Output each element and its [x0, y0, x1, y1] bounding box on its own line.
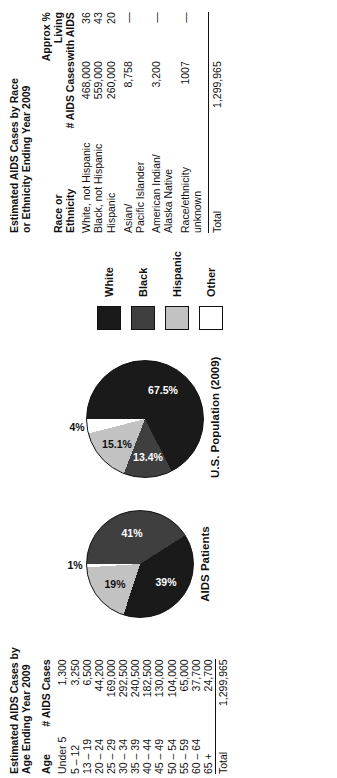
age-label: 5 – 12	[69, 727, 81, 774]
age-cases-value: 130,000	[154, 659, 166, 726]
age-cases-value: 44,200	[93, 659, 105, 726]
age-cases-value: 24,700	[203, 659, 216, 726]
us-population-pie-caption: U.S. Population (2009)	[209, 357, 221, 478]
pie-legend: WhiteBlackHispanicOther	[98, 251, 234, 330]
table-row: 35 – 39240,500	[130, 659, 142, 774]
age-cases-value: 240,500	[130, 659, 142, 726]
race-cases-column-header: # AIDS Cases	[41, 61, 80, 128]
race-group-label: Asian/ Pacific Islander	[122, 129, 147, 233]
age-label: 30 – 34	[118, 727, 130, 774]
legend-swatch-icon	[131, 306, 155, 330]
table-row: 20 – 2444,200	[93, 659, 105, 774]
age-label: 65 +	[203, 727, 216, 774]
age-label: 25 – 29	[106, 727, 118, 774]
legend-item-label: Black	[137, 268, 149, 297]
race-pct-living-value: 36	[80, 12, 93, 61]
age-total-label: Total	[215, 727, 230, 774]
table-row-total: Total1,299,965	[215, 659, 230, 774]
us-population-pie-chart: 67.5%13.4%15.1%4%	[86, 360, 204, 478]
race-pct-living-value: —	[122, 12, 147, 61]
age-column-header: Age	[41, 727, 57, 774]
table-row: 45 – 49130,000	[154, 659, 166, 774]
pie-slice-label: 15.1%	[102, 438, 132, 450]
legend-item-black: Black	[132, 251, 154, 330]
race-pct-living-value: —	[151, 12, 176, 61]
aids-patients-pie-caption: AIDS Patients	[199, 510, 211, 618]
legend-swatch-icon	[199, 306, 223, 330]
age-table-block: Estimated AIDS Cases by Age Ending Year …	[8, 647, 230, 774]
table-row: Race/ethnicity unknown1007—	[179, 12, 204, 233]
race-total-pct	[209, 12, 224, 61]
table-row: 5 – 123,250	[69, 659, 81, 774]
table-row: 60 – 6437,700	[190, 659, 202, 774]
age-label: 20 – 24	[93, 727, 105, 774]
race-group-label: Race/ethnicity unknown	[179, 129, 204, 233]
race-cases-value: 559,000	[93, 61, 106, 128]
age-table: Age # AIDS Cases Under 51,3005 – 123,250…	[41, 659, 229, 774]
age-label: 35 – 39	[130, 727, 142, 774]
age-table-header-row: Age # AIDS Cases	[41, 659, 57, 774]
race-group-label: Hispanic	[106, 129, 119, 233]
table-row: White, not Hispanic468,00036	[80, 12, 93, 233]
age-table-body: Under 51,3005 – 123,25013 – 196,50020 – …	[57, 659, 230, 774]
legend-swatch-icon	[97, 306, 121, 330]
race-column-header: Race or Ethnicity	[41, 129, 80, 233]
age-label: 55 – 59	[178, 727, 190, 774]
age-cases-value: 292,500	[118, 659, 130, 726]
age-label: 60 – 64	[190, 727, 202, 774]
race-table-body: White, not Hispanic468,00036Black, not H…	[80, 12, 224, 233]
table-row: Asian/ Pacific Islander8,758—	[122, 12, 147, 233]
us-population-pie-block: 67.5%13.4%15.1%4% U.S. Population (2009)	[86, 357, 221, 478]
age-label: 45 – 49	[154, 727, 166, 774]
race-table: Race or Ethnicity # AIDS Cases Approx % …	[41, 12, 223, 233]
pie-slice-label: 4%	[69, 421, 84, 433]
age-cases-column-header: # AIDS Cases	[41, 659, 57, 726]
legend-item-label: White	[103, 267, 115, 297]
age-cases-value: 3,250	[69, 659, 81, 726]
race-group-label: White, not Hispanic	[80, 129, 93, 233]
age-cases-value: 169,000	[106, 659, 118, 726]
age-cases-value: 37,700	[190, 659, 202, 726]
pie-slice-label: 67.5%	[148, 384, 178, 396]
pie-slice-label: 39%	[155, 576, 176, 588]
legend-item-other: Other	[200, 251, 222, 330]
table-row: 65 +24,700	[203, 659, 216, 774]
rotated-figure-wrapper: Estimated AIDS Cases by Age Ending Year …	[0, 0, 337, 778]
age-label: 40 – 44	[142, 727, 154, 774]
race-cases-value: 260,000	[106, 61, 119, 128]
aids-patients-pie-block: 41%39%19%1% AIDS Patients	[86, 510, 211, 618]
table-row: 13 – 196,500	[81, 659, 93, 774]
legend-item-label: Hispanic	[171, 251, 183, 297]
age-label: 50 – 54	[166, 727, 178, 774]
race-cases-value: 1007	[179, 61, 204, 128]
race-pct-living-value: —	[179, 12, 204, 61]
table-row: 50 – 54104,000	[166, 659, 178, 774]
table-row: 30 – 34292,500	[118, 659, 130, 774]
pie-slice-label: 41%	[122, 527, 143, 539]
race-pct-column-header: Approx % Living with AIDS	[41, 12, 80, 61]
age-cases-value: 65,000	[178, 659, 190, 726]
table-row: 25 – 29169,000	[106, 659, 118, 774]
age-table-title: Estimated AIDS Cases by Age Ending Year …	[8, 647, 32, 774]
race-table-header-row: Race or Ethnicity # AIDS Cases Approx % …	[41, 12, 80, 233]
race-cases-value: 468,000	[80, 61, 93, 128]
table-row-total: Total1,299,965	[209, 12, 224, 233]
age-cases-value: 104,000	[166, 659, 178, 726]
figure-canvas: Estimated AIDS Cases by Age Ending Year …	[0, 0, 337, 778]
race-group-label: Black, not Hispanic	[93, 129, 106, 233]
pie-slice-label: 1%	[68, 559, 83, 571]
pie-slice-label: 13.4%	[133, 451, 163, 463]
legend-swatch-icon	[165, 306, 189, 330]
table-row: 55 – 5965,000	[178, 659, 190, 774]
age-cases-value: 1,300	[57, 659, 69, 726]
table-row: 40 – 44182,500	[142, 659, 154, 774]
age-cases-value: 182,500	[142, 659, 154, 726]
table-row: Black, not Hispanic559,00043	[93, 12, 106, 233]
aids-patients-pie-chart: 41%39%19%1%	[86, 510, 194, 618]
age-label: Under 5	[57, 727, 69, 774]
race-total-cases: 1,299,965	[209, 61, 224, 128]
race-table-title: Estimated AIDS Cases by Race or Ethnicit…	[8, 12, 32, 233]
table-row: Hispanic260,00020	[106, 12, 119, 233]
race-pct-living-value: 43	[93, 12, 106, 61]
race-cases-value: 8,758	[122, 61, 147, 128]
